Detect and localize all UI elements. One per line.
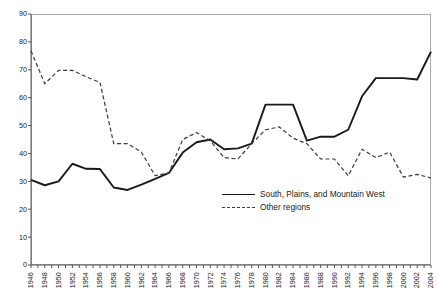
x-tick-label-1988: 1988 [317,272,324,288]
x-tick-label-1990: 1990 [330,272,337,288]
x-tick-label-1956: 1956 [96,272,103,288]
x-axis-tick-labels: 1946194819501952195419561958196019621964… [31,267,431,288]
legend-label: South, Plains, and Mountain West [260,190,385,199]
x-tick-label-1946: 1946 [27,272,34,288]
x-tick-label-1986: 1986 [303,272,310,288]
x-tick-label-1968: 1968 [179,272,186,288]
x-tick-label-1992: 1992 [344,272,351,288]
x-tick-label-1962: 1962 [137,272,144,288]
x-tick-label-2004: 2004 [427,272,434,288]
x-tick-label-1950: 1950 [55,272,62,288]
x-tick-label-1952: 1952 [68,272,75,288]
x-tick-label-1994: 1994 [358,272,365,288]
x-tick-label-1976: 1976 [234,272,241,288]
axis-lines [31,14,431,265]
x-tick-label-1970: 1970 [193,272,200,288]
chart-legend: South, Plains, and Mountain West Other r… [222,188,385,214]
x-tick-label-1972: 1972 [206,272,213,288]
legend-label: Other regions [260,203,310,212]
x-tick-label-1964: 1964 [151,272,158,288]
x-tick-label-1996: 1996 [372,272,379,288]
legend-item-other-regions: Other regions [222,201,385,214]
legend-solid-line-swatch [222,191,255,199]
x-tick-label-1954: 1954 [82,272,89,288]
chart-container: 0102030405060708090 19461948195019521954… [0,0,438,288]
x-tick-label-1978: 1978 [248,272,255,288]
x-tick-label-1984: 1984 [289,272,296,288]
x-tick-label-1998: 1998 [386,272,393,288]
legend-dashed-line-swatch [222,204,255,212]
x-tick-label-1958: 1958 [110,272,117,288]
x-tick-label-1960: 1960 [124,272,131,288]
series-line-south-plains-mountain-west [31,52,431,190]
x-tick-label-1948: 1948 [41,272,48,288]
x-tick-label-2000: 2000 [399,272,406,288]
x-tick-label-1980: 1980 [261,272,268,288]
chart-svg-layer [0,0,438,288]
data-series-group [31,51,431,190]
x-tick-label-1974: 1974 [220,272,227,288]
x-tick-label-2002: 2002 [413,272,420,288]
x-tick-label-1966: 1966 [165,272,172,288]
x-tick-label-1982: 1982 [275,272,282,288]
legend-item-south-plains-mountain-west: South, Plains, and Mountain West [222,188,385,201]
series-line-other-regions [31,51,431,178]
